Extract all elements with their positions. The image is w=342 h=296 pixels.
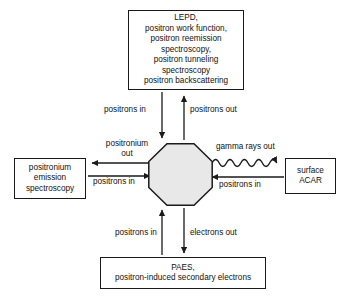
box-bottom-line-1: PAES,: [171, 263, 195, 274]
box-lepd-techniques[interactable]: LEPD, positron work function, positron r…: [128, 10, 244, 90]
box-left-line-1: positronium: [29, 163, 71, 174]
label-positrons-out-top: positrons out: [190, 105, 237, 115]
box-top-line-7: positron backscattering: [144, 76, 228, 87]
box-right-line-2: ACAR: [299, 176, 322, 187]
label-positronium-out-line-1: positronium: [97, 139, 157, 149]
label-positronium-out: positronium out: [97, 139, 157, 160]
box-left-line-2: emission: [34, 173, 66, 184]
box-top-line-1: LEPD,: [174, 13, 198, 24]
label-electrons-out-bottom: electrons out: [190, 228, 237, 238]
box-top-line-4: spectroscopy,: [161, 45, 211, 56]
label-positronium-out-line-2: out: [97, 149, 157, 159]
box-top-line-6: spectroscopy: [162, 66, 210, 77]
arrow-gamma-rays-out: [212, 160, 277, 167]
box-top-line-5: positron tunneling: [154, 55, 219, 66]
label-positrons-in-bottom: positrons in: [115, 228, 157, 238]
box-positronium-emission-spectroscopy[interactable]: positronium emission spectroscopy: [14, 158, 86, 199]
box-top-line-2: positron work function,: [145, 24, 227, 35]
box-bottom-line-2: positron-induced secondary electrons: [115, 273, 251, 284]
label-positrons-in-top: positrons in: [104, 105, 146, 115]
box-top-line-3: positron reemission: [151, 34, 222, 45]
diagram-canvas: LEPD, positron work function, positron r…: [0, 0, 342, 296]
center-octagon: [148, 143, 213, 206]
box-paes[interactable]: PAES, positron-induced secondary electro…: [100, 257, 266, 289]
label-gamma-rays-out: gamma rays out: [216, 142, 275, 152]
box-right-line-1: surface: [297, 166, 324, 177]
label-positrons-in-right: positrons in: [219, 180, 261, 190]
box-surface-acar[interactable]: surface ACAR: [285, 158, 336, 194]
label-positrons-in-left: positrons in: [93, 177, 135, 187]
box-left-line-3: spectroscopy: [26, 184, 74, 195]
